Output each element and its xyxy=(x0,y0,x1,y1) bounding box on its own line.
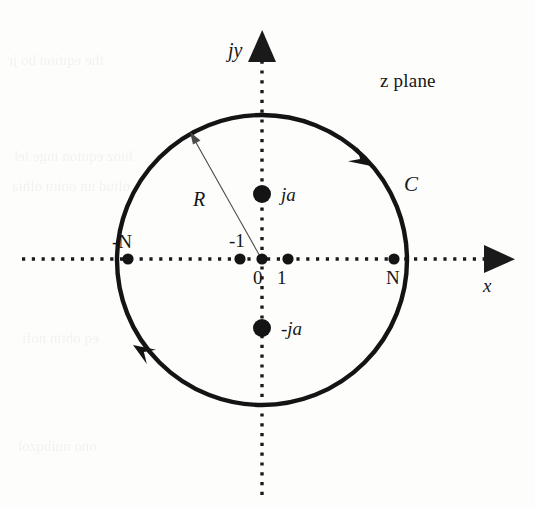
point-label-minus-1: -1 xyxy=(229,231,245,250)
axis-x-arrowhead xyxy=(484,245,515,273)
point-label-zero: 0 xyxy=(253,268,263,287)
axis-y-arrowhead xyxy=(248,30,276,62)
complex-plane-contour-diagram xyxy=(0,0,535,507)
point-label-minus-ja: -ja xyxy=(281,319,302,338)
figure-caption-z-plane: z plane xyxy=(380,71,436,90)
axis-x-label: x xyxy=(483,276,491,295)
figure-page: the eqition bo jr hioz equion inge iel o… xyxy=(0,0,535,507)
axis-y-label: jy xyxy=(228,40,242,60)
point-dot-one xyxy=(282,253,293,264)
point-label-ja: ja xyxy=(281,185,296,204)
radius-label-R: R xyxy=(193,189,205,209)
point-dot-N xyxy=(388,253,399,264)
contour-label-C: C xyxy=(404,174,418,195)
point-dot-pole-ja xyxy=(253,185,271,203)
radius-arrowhead xyxy=(190,132,201,145)
point-dot-minus-N xyxy=(122,253,133,264)
point-label-N: N xyxy=(386,268,400,287)
point-dot-zero xyxy=(256,253,267,264)
point-label-one: 1 xyxy=(277,268,287,287)
axis-x xyxy=(22,245,515,273)
point-dot-minus-1 xyxy=(234,253,245,264)
contour-arrow-upper-right xyxy=(348,147,376,173)
point-label-minus-N: -N xyxy=(112,232,132,251)
point-dot-pole-minus-ja xyxy=(253,319,271,337)
